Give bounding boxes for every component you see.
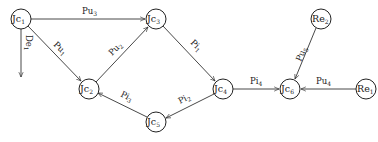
edge-pu5: Pu5 [294,28,316,79]
edge-pi2: Pi2 [166,91,214,118]
edge-label-pi4: Pi4 [250,76,262,87]
edge-label-pi2: Pi2 [176,91,192,106]
edge-label-pi3: Pi3 [119,89,135,104]
edge-pu1: Pu1 [28,26,81,81]
node-jc5: Jc5 [146,112,166,132]
edge-pi4: Pi4 [233,76,279,89]
node-jc1: Jc1 [11,9,31,29]
edge-label-de1: De1 [23,35,34,51]
edge-pu2: Pu2 [96,27,148,82]
node-jc4: Jc4 [213,79,233,99]
node-jc2: Jc2 [79,79,99,99]
edge-pi1: Pi1 [163,26,215,81]
node-re2: Re2 [311,9,331,29]
edge-pu3: Pu3 [31,6,145,19]
node-re1: Re1 [356,79,376,99]
edge-label-pu3: Pu3 [82,6,97,17]
edge-de1: De1 [21,29,34,77]
node-jc6: Jc6 [280,79,300,99]
network-diagram: Pu3 Pu1 Pu2 Pi1 Pi2 Pi3 Pi4 Pu5 Pu4 De1 … [0,0,378,142]
edge-pu4: Pu4 [301,76,356,89]
edge-pi3: Pi3 [98,89,147,117]
edge-label-pu4: Pu4 [316,76,331,87]
edge-label-pu1: Pu1 [51,39,69,57]
edge-label-pu2: Pu2 [106,40,125,59]
edge-label-pi1: Pi1 [188,37,204,53]
node-jc3: Jc3 [146,9,166,29]
edge-label-pu5: Pu5 [294,45,310,63]
